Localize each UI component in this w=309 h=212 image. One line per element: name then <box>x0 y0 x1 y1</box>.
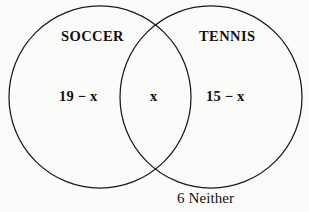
venn-diagram: SOCCER TENNIS 19 − x x 15 − x 6 Neither <box>0 0 309 212</box>
neither-region-value: 6 Neither <box>177 191 234 206</box>
soccer-set-title: SOCCER <box>61 29 124 44</box>
intersection-region-value: x <box>150 89 157 104</box>
tennis-set-title: TENNIS <box>199 29 255 44</box>
tennis-only-region-value: 15 − x <box>206 89 244 104</box>
venn-circles-graphic <box>0 0 309 212</box>
soccer-only-region-value: 19 − x <box>59 89 97 104</box>
